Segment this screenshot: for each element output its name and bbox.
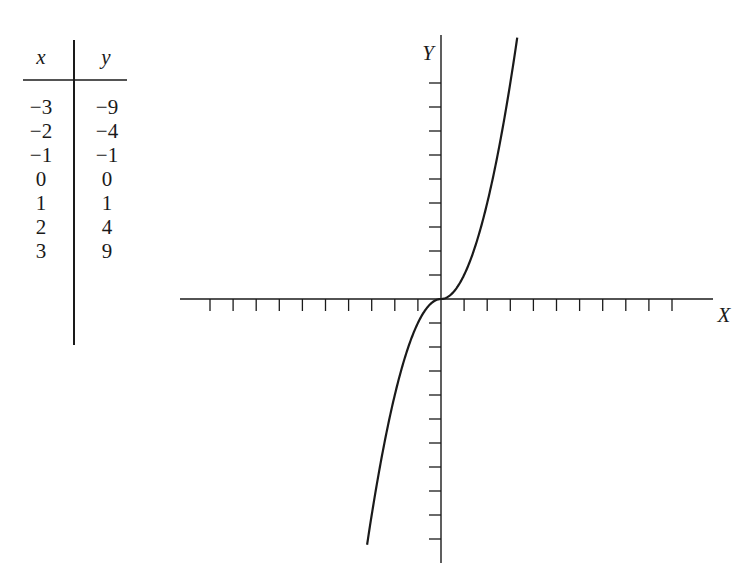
y-axis-label: Y xyxy=(422,41,436,65)
x-axis-label: X xyxy=(717,303,732,327)
curve-y-equals-x-abs-x xyxy=(367,38,517,545)
y-axis-ticks xyxy=(429,83,441,539)
graph: Y X xyxy=(0,0,738,588)
